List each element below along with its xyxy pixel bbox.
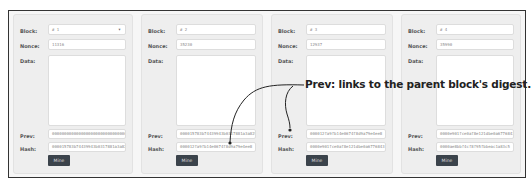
mine-button[interactable]: Mine: [48, 155, 70, 166]
nonce-label: Nonce:: [148, 43, 168, 49]
block-card-1: Block: # 1 ▾ Nonce: 11316 Data: Prev: 00…: [13, 14, 133, 174]
prev-input[interactable]: 0000000000000000000000000000000000000000…: [48, 129, 126, 139]
hash-label: Hash:: [148, 146, 164, 152]
nonce-input[interactable]: 35990: [436, 39, 514, 50]
data-textarea[interactable]: [48, 55, 126, 126]
data-label: Data:: [408, 58, 423, 64]
block-label: Block:: [278, 28, 295, 34]
data-label: Data:: [278, 58, 293, 64]
nonce-label: Nonce:: [20, 43, 40, 49]
block-number-select[interactable]: # 4: [436, 24, 514, 35]
block-card-4: Block: # 4 Nonce: 35990 Data: Prev: 0000…: [401, 14, 521, 174]
data-label: Data:: [148, 58, 163, 64]
hash-label: Hash:: [20, 146, 36, 152]
data-textarea[interactable]: [176, 55, 256, 126]
nonce-input[interactable]: 11316: [48, 39, 126, 50]
nonce-label: Nonce:: [408, 43, 428, 49]
block-number-select[interactable]: # 1 ▾: [48, 24, 126, 35]
hash-label: Hash:: [408, 146, 424, 152]
prev-input[interactable]: 000015783b74439943b0317881a3a825: [176, 129, 256, 139]
mine-button[interactable]: Mine: [436, 155, 458, 166]
block-label: Block:: [408, 28, 425, 34]
hash-input[interactable]: 0000e901fce0af8e121dbe0a6776843: [306, 142, 386, 152]
nonce-input[interactable]: 12937: [306, 39, 386, 50]
hash-label: Hash:: [278, 146, 294, 152]
prev-input[interactable]: 000012fa9fb14e0674f8d9a79e4ee8: [306, 129, 386, 139]
mine-button[interactable]: Mine: [176, 155, 198, 166]
hash-input[interactable]: 000012fa9fb14e0674f8d9a79e4ee8: [176, 142, 256, 152]
prev-label: Prev:: [20, 133, 35, 139]
prev-label: Prev:: [148, 133, 163, 139]
block-number-value: # 2: [180, 27, 187, 32]
data-label: Data:: [20, 58, 35, 64]
block-number-value: # 3: [310, 27, 317, 32]
block-number-value: # 4: [440, 27, 447, 32]
block-card-3: Block: # 3 Nonce: 12937 Data: Prev: 0000…: [271, 14, 393, 174]
data-textarea[interactable]: [306, 55, 386, 126]
block-number-select[interactable]: # 2: [176, 24, 256, 35]
block-number-select[interactable]: # 3: [306, 24, 386, 35]
block-card-2: Block: # 2 Nonce: 35230 Data: Prev: 0000…: [141, 14, 263, 174]
annotation-text: Prev: links to the parent block's digest…: [305, 78, 531, 90]
blockchain-panel: Block: # 1 ▾ Nonce: 11316 Data: Prev: 00…: [8, 10, 526, 178]
prev-label: Prev:: [278, 133, 293, 139]
mine-button[interactable]: Mine: [306, 155, 328, 166]
chevron-down-icon: ▾: [118, 25, 121, 34]
block-number-value: # 1: [52, 27, 59, 32]
prev-label: Prev:: [408, 133, 423, 139]
data-textarea[interactable]: [436, 55, 514, 126]
block-label: Block:: [20, 28, 37, 34]
prev-input[interactable]: 0000e901fce0af8e121dbe0a6776843: [436, 129, 514, 139]
block-label: Block:: [148, 28, 165, 34]
nonce-label: Nonce:: [278, 43, 298, 49]
nonce-input[interactable]: 35230: [176, 39, 256, 50]
hash-input[interactable]: 0000ae8bbf4cf8f95fbbeac1a83c5: [436, 142, 514, 152]
hash-input[interactable]: 000015783b74439943b0317881a3a825: [48, 142, 126, 152]
